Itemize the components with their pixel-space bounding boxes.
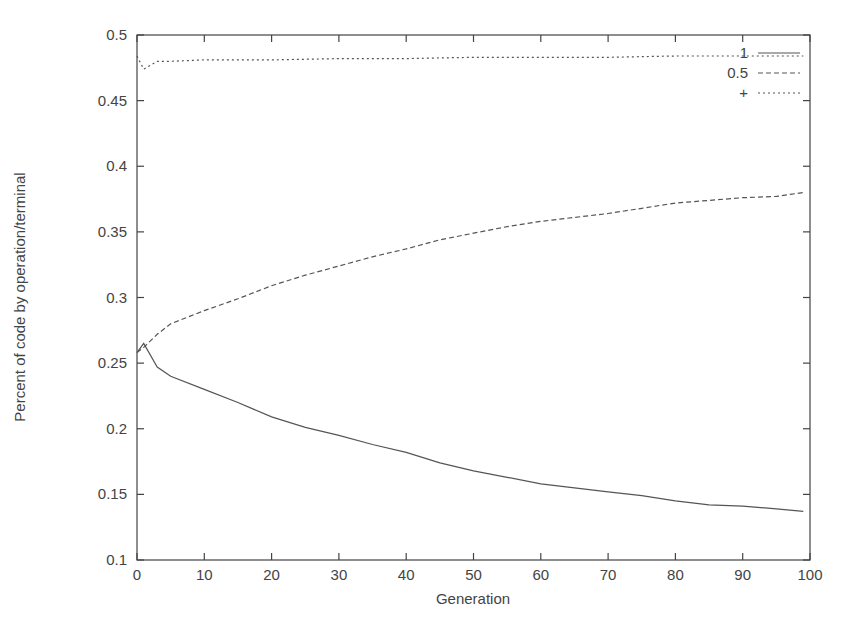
y-tick-label: 0.1 (106, 551, 127, 568)
x-tick-label: 30 (331, 566, 348, 583)
x-tick-label: 0 (133, 566, 141, 583)
x-tick-label: 100 (797, 566, 822, 583)
plot-border (137, 35, 810, 560)
legend: 10.5+ (727, 44, 800, 101)
series-line-dotted (137, 56, 803, 69)
y-tick-label: 0.2 (106, 420, 127, 437)
y-axis-label: Percent of code by operation/terminal (11, 172, 28, 421)
x-tick-label: 40 (398, 566, 415, 583)
y-tick-label: 0.4 (106, 157, 127, 174)
x-tick-label: 90 (734, 566, 751, 583)
x-axis-ticks: 0102030405060708090100 (133, 35, 823, 583)
x-tick-label: 60 (532, 566, 549, 583)
y-axis-ticks: 0.10.150.20.250.30.350.40.450.5 (98, 26, 810, 568)
x-axis-label: Generation (436, 590, 510, 607)
x-tick-label: 80 (667, 566, 684, 583)
line-chart: 0.10.150.20.250.30.350.40.450.5 01020304… (0, 0, 854, 632)
y-tick-label: 0.35 (98, 223, 127, 240)
plot-frame (137, 35, 810, 560)
x-tick-label: 70 (600, 566, 617, 583)
y-tick-label: 0.25 (98, 354, 127, 371)
legend-label: + (739, 84, 748, 101)
x-tick-label: 10 (196, 566, 213, 583)
series-line-solid (137, 343, 803, 511)
y-tick-label: 0.15 (98, 485, 127, 502)
y-tick-label: 0.3 (106, 289, 127, 306)
legend-label: 0.5 (727, 64, 748, 81)
x-tick-label: 20 (263, 566, 280, 583)
x-tick-label: 50 (465, 566, 482, 583)
series-lines (137, 56, 803, 511)
y-tick-label: 0.5 (106, 26, 127, 43)
legend-label: 1 (740, 44, 748, 61)
y-tick-label: 0.45 (98, 92, 127, 109)
series-line-dashed (137, 193, 803, 353)
